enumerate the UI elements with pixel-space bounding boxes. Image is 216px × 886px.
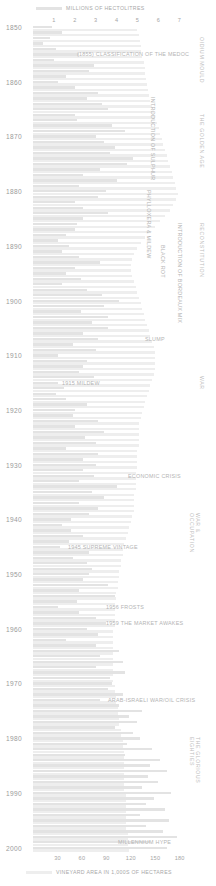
bar-production [33, 42, 43, 44]
decade-label: 1870 [6, 133, 22, 140]
bar-production [33, 485, 117, 487]
bar-production [33, 157, 133, 159]
bar-production [33, 349, 96, 351]
bar-production [33, 48, 56, 50]
bar-production [33, 393, 56, 395]
decade-label: 1880 [6, 188, 22, 195]
chart-annotation: ECONOMIC CRISIS [128, 473, 181, 479]
era-label: THE GLORIOUSEIGHTIES [189, 737, 200, 783]
bar-production [33, 97, 87, 99]
bar-production [33, 26, 52, 28]
chart-annotation: (1855) CLASSIFICATION OF THE MEDOC [77, 51, 189, 57]
chart-annotation: 1956 FROSTS [106, 604, 144, 610]
bar-production [33, 245, 69, 247]
chart-annotation: 1959 THE MARKET AWAKES [106, 620, 183, 626]
bar-production [33, 682, 112, 684]
bar-production [33, 606, 58, 608]
bar-production [33, 797, 154, 799]
bar-production [33, 814, 140, 816]
bar-production [33, 819, 169, 821]
bar-production [33, 480, 79, 482]
bar-production [33, 135, 96, 137]
axis-tick-bottom: 150 [150, 855, 160, 861]
bar-production [33, 228, 75, 230]
axis-tick-top: 3 [94, 17, 97, 23]
bar-production [33, 617, 96, 619]
bar-production [33, 196, 98, 198]
bar-production [33, 633, 98, 635]
bar-production [33, 464, 96, 466]
bar-production [33, 114, 75, 116]
chart-annotation: BLACK ROT [160, 245, 166, 278]
bar-production [33, 589, 79, 591]
bar-production [33, 721, 137, 723]
bar-production [33, 207, 83, 209]
bar-production [33, 535, 83, 537]
bar-production [33, 540, 69, 542]
bar-production [33, 677, 110, 679]
chart-annotation: INTRODUCTION OF SULPHUR [150, 97, 156, 180]
bar-production [33, 234, 66, 236]
bar-production [33, 190, 106, 192]
chart-annotation: 1945 SUPREME VINTAGE [68, 544, 138, 550]
bar-production [33, 425, 75, 427]
axis-tick-bottom: 60 [79, 855, 86, 861]
bar-production [33, 371, 79, 373]
bar-production [33, 491, 92, 493]
decade-label: 1990 [6, 790, 22, 797]
bar-production [33, 108, 108, 110]
bar-production [33, 671, 125, 673]
legend-swatch-production [36, 7, 62, 10]
bar-production [33, 573, 89, 575]
bar-production [33, 666, 96, 668]
decade-label: 1900 [6, 298, 22, 305]
bar-production [33, 124, 112, 126]
bar-production [33, 475, 94, 477]
bar-production [33, 185, 79, 187]
bar-production [33, 836, 177, 838]
bar-production [33, 338, 98, 340]
bar-production [33, 289, 87, 291]
bar-production [33, 595, 115, 597]
era-label: THE GOLDEN AGE [199, 114, 205, 168]
bar-production [33, 365, 83, 367]
bar-production [33, 529, 71, 531]
chart-row [0, 847, 216, 853]
legend-vineyard-area: VINEYARD AREA IN 1,000S OF HECTARES [26, 869, 172, 875]
bar-production [33, 70, 89, 72]
axis-tick-top: 1 [52, 17, 55, 23]
bar-production [33, 360, 87, 362]
axis-tick-top: 5 [136, 17, 139, 23]
bar-production [33, 354, 58, 356]
bar-production [33, 496, 104, 498]
bar-production [33, 644, 96, 646]
bar-production [33, 409, 75, 411]
bar-production [33, 163, 127, 165]
bar-production [33, 316, 108, 318]
legend-label-production: MILLIONS OF HECTOLITRES [66, 5, 145, 11]
bar-production [33, 152, 110, 154]
chart-annotation: INTRODUCTION OF BORDEAUX MIX [177, 223, 183, 323]
bar-production [33, 568, 92, 570]
chart-annotation: ARAB-ISRAELI WAR/OIL CRISIS [108, 697, 195, 703]
bar-production [33, 447, 66, 449]
bar-production [33, 732, 133, 734]
bar-production [33, 103, 102, 105]
bar-production [33, 141, 104, 143]
bar-production [33, 179, 117, 181]
legend-label-vineyard-area: VINEYARD AREA IN 1,000S OF HECTARES [56, 869, 172, 875]
bar-production [33, 212, 108, 214]
legend-production: MILLIONS OF HECTOLITRES [36, 5, 145, 11]
plot-area [0, 26, 216, 852]
bar-production [33, 75, 66, 77]
decade-label: 2000 [6, 845, 22, 852]
decade-label: 1890 [6, 243, 22, 250]
bar-production [33, 786, 142, 788]
decade-label: 1960 [6, 626, 22, 633]
bar-production [33, 847, 167, 849]
bar-production [33, 551, 89, 553]
bar-production [33, 469, 83, 471]
bar-production [33, 830, 163, 832]
bar-production [33, 414, 73, 416]
bar-production [33, 146, 115, 148]
